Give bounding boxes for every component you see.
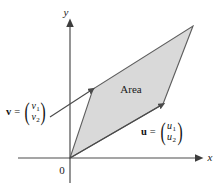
y-axis-label: y [63,6,69,18]
vector-u-equals: = [150,127,156,138]
vector-u-label: u = ( u1 u2 ) [141,121,184,143]
origin-label: 0 [59,164,65,176]
vector-v-name: v [6,107,11,118]
vector-v-equals: = [14,107,20,118]
vector-u-name: u [141,127,147,138]
vector-v-paren-right: ) [41,103,46,121]
vector-v-components: v1 v2 [32,101,40,123]
area-label: Area [120,83,141,95]
x-axis-label: x [207,151,213,163]
vector-u-components: u1 u2 [167,121,176,143]
vector-u-component-2: u2 [167,132,176,143]
vector-u-paren-left: ( [160,123,165,141]
vector-v-paren-left: ( [25,103,30,121]
vector-u-paren-right: ) [177,123,182,141]
figure-container: y x 0 Area v = ( v1 v2 ) u = ( u1 u2 ) [0,0,224,187]
vector-v-component-2: v2 [32,112,40,123]
vector-v-label: v = ( v1 v2 ) [6,101,48,123]
parallelogram-figure: y x 0 Area [0,0,224,187]
